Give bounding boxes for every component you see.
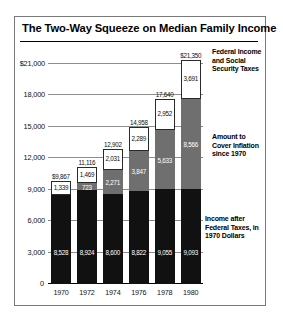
- plot-area: $21,00018,00015,00012,0009,0006,0003,000…: [48, 48, 203, 284]
- segment-inflation: 3,847: [129, 151, 149, 191]
- segment-federal-taxes: 2,952: [155, 99, 175, 130]
- bar-1970: 8,5281,339$9,8671970: [51, 181, 71, 284]
- segment-value-label: 723: [77, 184, 97, 191]
- x-axis-tick-label: 1976: [129, 288, 149, 297]
- legend-inflation: Amount to Cover Inflation since 1970: [212, 133, 264, 159]
- segment-income-after-taxes: 8,600: [103, 194, 123, 284]
- legend-federal-taxes: Federal Income and Social Security Taxes: [212, 48, 262, 74]
- segment-value-label: 3,691: [182, 75, 200, 82]
- segment-value-label: 8,566: [181, 141, 201, 148]
- y-axis-tick-label: 6,000: [28, 216, 46, 225]
- title-divider: [20, 41, 258, 42]
- x-axis-tick-label: 1970: [51, 288, 71, 297]
- segment-income-after-taxes: 8,924: [77, 190, 97, 284]
- segment-value-label: 8,600: [103, 249, 123, 256]
- segment-income-after-taxes: 8,528: [51, 195, 71, 284]
- segment-value-label: 5,633: [155, 157, 175, 164]
- segment-inflation: 5,633: [155, 130, 175, 189]
- y-axis-tick-label: $21,000: [20, 58, 45, 67]
- segment-federal-taxes: 1,339: [51, 181, 71, 195]
- bar-1974: 8,6002,2712,03112,9021974: [103, 149, 123, 284]
- segment-value-label: 9,093: [181, 249, 201, 256]
- segment-inflation: 8,566: [181, 99, 201, 189]
- segment-value-label: 8,924: [77, 249, 97, 256]
- segment-value-label: 8,528: [51, 249, 71, 256]
- bar-1972: 8,9247231,46911,1161972: [77, 167, 97, 284]
- y-axis-tick-label: 0: [40, 279, 44, 288]
- x-axis-tick-label: 1978: [155, 288, 175, 297]
- y-axis-tick-label: 18,000: [24, 90, 45, 99]
- segment-value-label: 8,822: [129, 249, 149, 256]
- segment-value-label: 9,055: [155, 249, 175, 256]
- chart-title: The Two-Way Squeeze on Median Family Inc…: [22, 22, 254, 38]
- segment-value-label: 2,952: [156, 110, 174, 117]
- segment-value-label: 2,031: [104, 155, 122, 162]
- bar-total-label: $21,350: [168, 52, 214, 59]
- x-axis-tick-label: 1972: [77, 288, 97, 297]
- x-axis-tick-label: 1980: [181, 288, 201, 297]
- y-axis-tick-label: 9,000: [28, 184, 46, 193]
- segment-value-label: 2,289: [130, 135, 148, 142]
- segment-income-after-taxes: 8,822: [129, 191, 149, 284]
- segment-federal-taxes: 1,469: [77, 167, 97, 182]
- segment-value-label: 3,847: [129, 168, 149, 175]
- segment-value-label: 1,469: [78, 171, 96, 178]
- bar-1976: 8,8223,8472,28914,9581976: [129, 127, 149, 284]
- bar-1980: 9,0938,5663,691$21,3501980: [181, 60, 201, 284]
- y-axis-tick-label: 3,000: [28, 247, 46, 256]
- x-axis-tick-label: 1974: [103, 288, 123, 297]
- legend-income-after-taxes: Income after Federal Taxes, in 1970 Doll…: [205, 215, 263, 241]
- bar-1978: 9,0555,6332,95217,6401978: [155, 99, 175, 284]
- segment-federal-taxes: 2,289: [129, 127, 149, 151]
- segment-inflation: 2,271: [103, 170, 123, 194]
- segment-value-label: 2,271: [103, 179, 123, 186]
- segment-income-after-taxes: 9,093: [181, 189, 201, 284]
- y-axis-tick-label: 15,000: [24, 121, 45, 130]
- segment-income-after-taxes: 9,055: [155, 189, 175, 284]
- segment-federal-taxes: 3,691: [181, 60, 201, 99]
- y-axis-tick-label: 12,000: [24, 153, 45, 162]
- segment-value-label: 1,339: [52, 184, 70, 191]
- segment-inflation: 723: [77, 183, 97, 191]
- segment-federal-taxes: 2,031: [103, 149, 123, 170]
